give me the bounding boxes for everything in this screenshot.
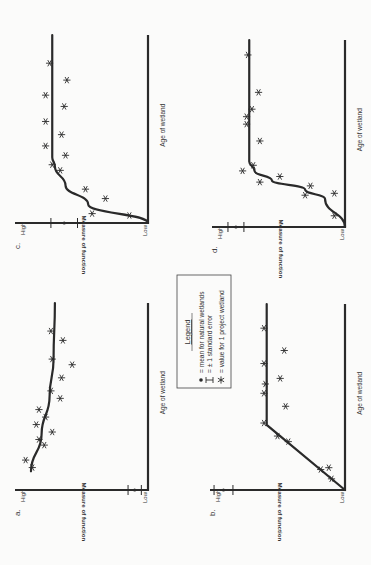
natural-mean-dot bbox=[234, 225, 237, 228]
high-label: High bbox=[20, 223, 26, 235]
y-axis-label: Measure of function bbox=[81, 483, 88, 542]
legend-item-se: = ± 1 standard error bbox=[206, 314, 213, 373]
x-axis-label: Age of wetland bbox=[159, 371, 167, 414]
legend-title: Legend bbox=[183, 319, 192, 344]
high-label: High bbox=[217, 227, 223, 239]
low-label: Low bbox=[142, 224, 148, 236]
low-label: Low bbox=[142, 491, 148, 503]
x-axis-label: Age of wetland bbox=[356, 108, 364, 151]
legend-item-project: = value for 1 project wetland bbox=[218, 290, 226, 373]
natural-mean-dot bbox=[222, 488, 225, 491]
dot-icon bbox=[199, 378, 203, 382]
y-axis-label: Measure of function bbox=[81, 216, 88, 275]
panel-label: c. bbox=[13, 243, 22, 249]
x-axis-label: Age of wetland bbox=[356, 371, 364, 414]
y-axis-label: Measure of function bbox=[277, 483, 284, 542]
trend-line bbox=[31, 303, 55, 471]
natural-mean-dot bbox=[133, 488, 136, 491]
legend: Legend= mean for natural wetlands= ± 1 s… bbox=[177, 275, 231, 388]
panel-label: b. bbox=[208, 509, 217, 516]
natural-mean-dot bbox=[63, 221, 66, 224]
figure: HighLowa.Measure of functionAge of wetla… bbox=[0, 0, 371, 565]
trend-line bbox=[267, 304, 345, 490]
panel-a: HighLowa.Measure of functionAge of wetla… bbox=[13, 303, 167, 542]
trend-line bbox=[249, 40, 345, 227]
low-label: Low bbox=[339, 491, 345, 503]
low-label: Low bbox=[339, 228, 345, 240]
legend-item-mean: = mean for natural wetlands bbox=[198, 291, 205, 373]
panel-label: d. bbox=[210, 246, 219, 253]
panel-d: HighLowd.Measure of functionAge of wetla… bbox=[210, 40, 364, 279]
chart-canvas: HighLowa.Measure of functionAge of wetla… bbox=[0, 0, 371, 565]
high-label: High bbox=[215, 490, 221, 502]
panel-label: a. bbox=[13, 509, 22, 516]
y-axis-label: Measure of function bbox=[278, 220, 285, 279]
panel-c: HighLowc.Measure of functionAge of wetla… bbox=[13, 35, 167, 275]
high-label: High bbox=[20, 490, 26, 502]
trend-line bbox=[52, 35, 148, 223]
x-axis-label: Age of wetland bbox=[159, 103, 167, 146]
